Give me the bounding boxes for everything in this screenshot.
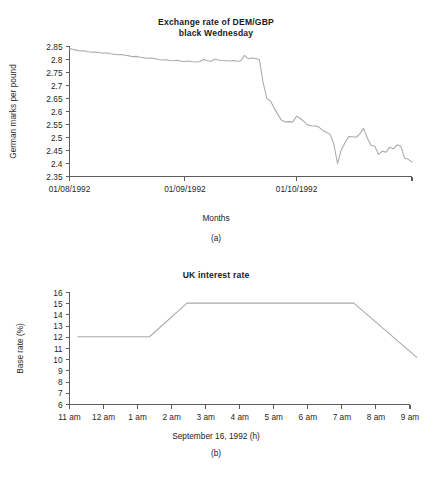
y-tick-label: 9 [58, 366, 63, 376]
y-tick-label: 2.7 [51, 81, 63, 91]
y-tick-label: 8 [58, 377, 63, 387]
x-tick-label: 4 am [231, 412, 250, 422]
y-tick-label: 12 [53, 332, 63, 342]
figure-b-x-ticks [70, 405, 411, 410]
figure-b-title: UK interest rate [0, 262, 432, 281]
y-tick-label: 10 [53, 355, 63, 365]
figure-b-y-tick-labels: 678910111213141516 [53, 288, 63, 410]
figure-a-x-tick-labels: 01/08/199201/09/199201/10/1992 [49, 184, 318, 194]
figure-a-title-line2: black Wednesday [0, 28, 432, 39]
figure-a-y-tick-labels: 2.352.42.452.52.552.62.652.72.752.82.85 [46, 42, 63, 182]
y-tick-label: 7 [58, 388, 63, 398]
x-tick-label: 9 am [401, 412, 420, 422]
y-tick-label: 6 [58, 400, 63, 410]
figure-b-x-tick-labels: 11 am12 am1 am2 am3 am4 am5 am6 am7 am8 … [58, 412, 419, 422]
y-tick-label: 2.55 [46, 120, 63, 130]
y-tick-label: 2.4 [51, 159, 63, 169]
y-tick-label: 16 [53, 288, 63, 298]
figure-a-y-ticks [66, 47, 70, 177]
y-tick-label: 2.85 [46, 42, 63, 52]
figure-b-title-line1: UK interest rate [0, 270, 432, 281]
figure-a-series-line [70, 48, 413, 163]
x-tick-label: 2 am [162, 412, 181, 422]
figure-b-x-axis-label: September 16, 1992 (h) [0, 431, 432, 441]
y-tick-label: 2.6 [51, 107, 63, 117]
x-tick-label: 11 am [58, 412, 81, 422]
y-tick-label: 2.8 [51, 55, 63, 65]
y-tick-label: 13 [53, 321, 63, 331]
x-tick-label: 3 am [196, 412, 215, 422]
y-tick-label: 14 [53, 310, 63, 320]
figure-a-svg: 2.352.42.452.52.552.62.652.72.752.82.85 … [0, 39, 432, 199]
figure-b-panel-tag: (b) [0, 448, 432, 458]
y-tick-label: 2.65 [46, 94, 63, 104]
figure-a-title: Exchange rate of DEM/GBP black Wednesday [0, 0, 432, 39]
y-tick-label: 2.45 [46, 146, 63, 156]
y-tick-label: 15 [53, 299, 63, 309]
x-tick-label: 01/08/1992 [49, 184, 91, 194]
y-tick-label: 2.5 [51, 133, 63, 143]
x-tick-label: 01/10/1992 [276, 184, 318, 194]
figure-a-x-ticks [70, 177, 413, 182]
x-tick-label: 5 am [265, 412, 284, 422]
y-tick-label: 2.35 [46, 172, 63, 182]
figure-b-svg: 678910111213141516 11 am12 am1 am2 am3 a… [0, 281, 432, 426]
figure-a-panel-tag: (a) [0, 233, 432, 243]
figure-a-plot-area: 2.352.42.452.52.552.62.652.72.752.82.85 … [0, 39, 432, 199]
y-tick-label: 11 [54, 344, 63, 354]
figure-exchange-rate: Exchange rate of DEM/GBP black Wednesday… [0, 0, 432, 262]
y-tick-label: 2.75 [46, 68, 63, 78]
figure-a-x-axis-label: Months [0, 213, 432, 223]
figure-b-plot-area: 678910111213141516 11 am12 am1 am2 am3 a… [0, 281, 432, 426]
figure-b-series-line [78, 303, 417, 357]
x-tick-label: 6 am [299, 412, 318, 422]
figure-b-y-axis-label: Base rate (%) [15, 323, 25, 374]
x-tick-label: 12 am [92, 412, 115, 422]
x-tick-label: 1 am [128, 412, 147, 422]
x-tick-label: 01/09/1992 [164, 184, 206, 194]
x-tick-label: 8 am [367, 412, 386, 422]
x-tick-label: 7 am [333, 412, 352, 422]
figure-interest-rate: UK interest rate 678910111213141516 11 a… [0, 262, 432, 495]
figure-a-title-line1: Exchange rate of DEM/GBP [0, 17, 432, 28]
figure-b-y-ticks [66, 293, 70, 405]
figure-a-y-axis-label: German marks per pound [8, 64, 18, 159]
